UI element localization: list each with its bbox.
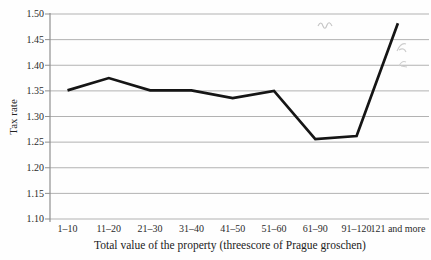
y-tick-label: 1.40 — [27, 60, 45, 71]
y-tick-label: 1.15 — [27, 188, 45, 199]
x-category-label: 121 and more — [370, 223, 426, 234]
y-tick-label: 1.45 — [27, 34, 45, 45]
chart-plot-area: 1.101.151.201.251.301.351.401.451.501–10… — [0, 0, 431, 260]
x-category-label: 51–60 — [262, 223, 287, 234]
x-category-label: 31–40 — [179, 223, 204, 234]
x-category-label: 21–30 — [138, 223, 163, 234]
x-axis-title: Total value of the property (threescore … — [30, 239, 430, 251]
x-category-label: 61–90 — [303, 223, 328, 234]
scan-smudge — [399, 62, 407, 68]
x-category-label: 91–120 — [342, 223, 372, 234]
tax-rate-line-chart: 1.101.151.201.251.301.351.401.451.501–10… — [0, 0, 431, 260]
data-line — [68, 23, 398, 139]
y-tick-label: 1.30 — [27, 111, 45, 122]
y-tick-label: 1.20 — [27, 162, 45, 173]
y-axis-title: Tax rate — [7, 99, 19, 135]
y-tick-label: 1.35 — [27, 85, 45, 96]
y-tick-label: 1.50 — [27, 8, 45, 19]
y-tick-label: 1.25 — [27, 136, 45, 147]
x-category-label: 1–10 — [58, 223, 78, 234]
y-tick-label: 1.10 — [27, 213, 45, 224]
x-category-label: 11–20 — [96, 223, 121, 234]
scan-smudge — [318, 23, 332, 29]
x-category-label: 41–50 — [220, 223, 245, 234]
scan-smudge — [397, 44, 406, 52]
